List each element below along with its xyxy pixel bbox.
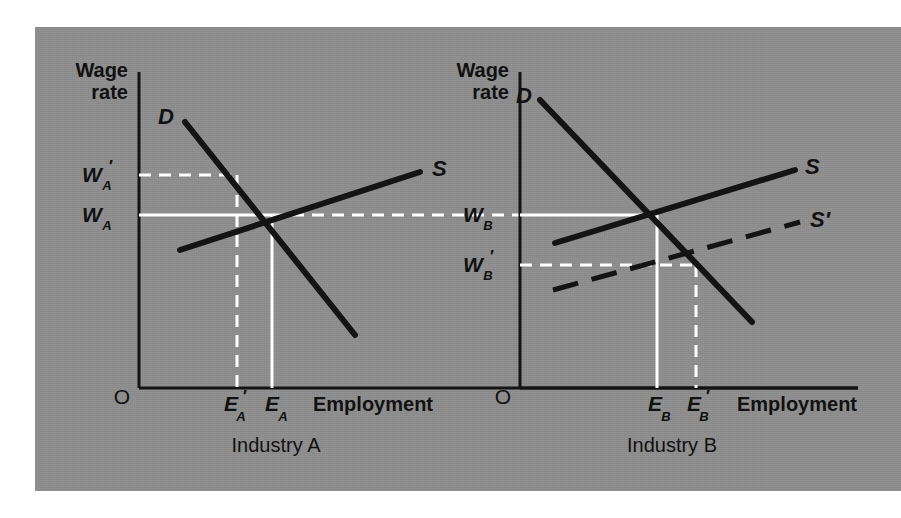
x-tick-label-ea: E A: [265, 392, 288, 424]
curve-demand-b: [540, 100, 752, 322]
panel-caption-b: Industry B: [627, 434, 717, 456]
y-tick-prime-wb-prime: ′: [489, 247, 494, 266]
curve-label-supply-b-shifted: S′: [810, 207, 832, 232]
y-axis-label-b-line1: Wage: [456, 59, 509, 81]
x-axis-label-a: Employment: [313, 393, 433, 415]
x-tick-label-ea-prime: E A ′: [224, 387, 247, 424]
x-tick-label-eb: E B: [648, 392, 671, 424]
y-tick-label-wb: W B: [463, 203, 493, 233]
origin-label-a: O: [114, 385, 130, 408]
diagram-canvas: D S Wage rate W A ′ W A O E A ′: [0, 0, 901, 518]
y-tick-label-wa-prime: W A ′: [82, 157, 113, 193]
y-tick-sub-wa: A: [101, 218, 111, 233]
y-tick-base-wb: W: [463, 203, 485, 226]
panel-industry-b: D S S′ Wage rate W B W B ′ O E B: [456, 59, 858, 456]
curve-supply-a: [180, 172, 420, 250]
x-tick-label-eb-prime: E B ′: [687, 387, 710, 424]
curve-label-demand-b: D: [516, 83, 532, 108]
y-tick-sub-wa-prime: A: [101, 178, 111, 193]
y-tick-label-wa: W A: [82, 203, 112, 233]
x-tick-prime-eb-prime: ′: [705, 387, 710, 406]
curve-demand-a: [185, 122, 355, 335]
y-tick-base-wa: W: [82, 203, 104, 226]
y-axis-label-a-line1: Wage: [75, 59, 128, 81]
curve-label-demand-a: D: [158, 104, 174, 129]
curve-label-supply-a: S: [432, 156, 447, 181]
panel-caption-a: Industry A: [232, 434, 322, 456]
x-tick-prime-ea-prime: ′: [242, 387, 247, 406]
y-tick-sub-wb-prime: B: [483, 268, 492, 283]
figure-root: D S Wage rate W A ′ W A O E A ′: [0, 0, 901, 518]
x-tick-sub-ea: A: [277, 409, 287, 424]
y-axis-label-a-line2: rate: [91, 81, 128, 103]
curve-label-supply-b: S: [805, 154, 820, 179]
x-tick-sub-eb: B: [661, 409, 670, 424]
x-tick-sub-eb-prime: B: [699, 409, 708, 424]
y-tick-label-wb-prime: W B ′: [463, 247, 494, 283]
y-axis-label-b-line2: rate: [472, 81, 509, 103]
y-tick-base-wa-prime: W: [82, 163, 104, 186]
origin-label-b: O: [495, 385, 511, 408]
y-tick-base-wb-prime: W: [463, 253, 485, 276]
y-tick-sub-wb: B: [483, 218, 492, 233]
x-axis-label-b: Employment: [737, 393, 857, 415]
y-tick-prime-wa-prime: ′: [108, 157, 113, 176]
x-tick-sub-ea-prime: A: [235, 409, 245, 424]
